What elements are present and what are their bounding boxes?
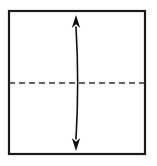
folding-diagram-svg (0, 0, 157, 166)
diagram-root: Square sheet of paper Fold crease (dashe… (0, 0, 157, 166)
